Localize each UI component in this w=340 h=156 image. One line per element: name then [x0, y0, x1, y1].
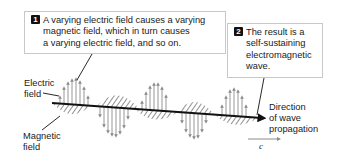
magnetic-field-label: Magnetic field: [23, 131, 61, 153]
callout-2: 2The result is a self-sustaining electro…: [227, 23, 323, 78]
callout-2-line-2: self-sustaining: [234, 38, 317, 49]
callout-1: 1A varying electric field causes a varyi…: [24, 11, 226, 54]
callout-2-line-1: The result is a: [246, 27, 304, 37]
electric-field-arrows: [60, 79, 246, 138]
callout-1-line-3: a varying electric field, and so on.: [31, 38, 219, 49]
step-number-badge: 1: [31, 15, 40, 24]
speed-label: c: [259, 141, 263, 152]
propagation-label: Direction of wave propagation: [269, 102, 318, 135]
callout-1-line-2: magnetic field, which in turn causes: [31, 26, 219, 37]
step-number-badge: 2: [234, 27, 243, 36]
callout-2-line-3: electromagnetic: [234, 50, 317, 61]
callout-1-line-1: A varying electric field causes a varyin…: [43, 15, 205, 25]
callout-2-line-4: wave.: [234, 61, 317, 72]
electric-field-label: Electric field: [24, 78, 54, 100]
